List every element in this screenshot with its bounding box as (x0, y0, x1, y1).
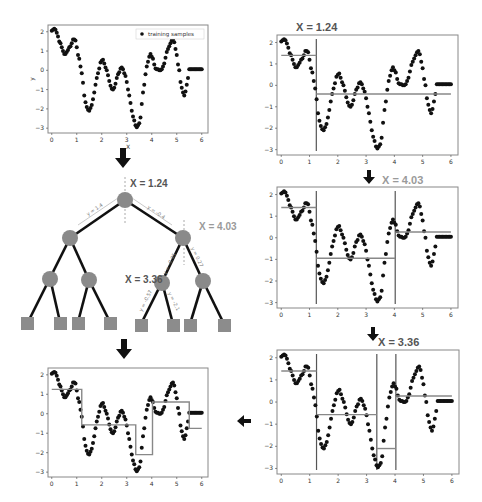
tree-leaves (21, 317, 231, 332)
leaf (54, 317, 67, 330)
x-tick-label: 5 (421, 158, 425, 165)
edge-label-right-left: y = -0.95 (162, 252, 178, 276)
split1-title: X = 1.24 (296, 21, 337, 33)
y-tick-label: 2 (40, 28, 44, 35)
x-tick-label: 2 (100, 136, 104, 143)
y-tick-label: −2 (264, 124, 273, 131)
x-tick-label: 6 (449, 158, 453, 165)
plot-frame (277, 35, 458, 155)
leaf (72, 317, 85, 330)
lower-split-label: X = 3.36 (125, 274, 163, 285)
training-samples-plot: 0123456210−1−2−3training samplesXy (0, 0, 241, 150)
node-left-right (81, 272, 97, 288)
node-left (62, 230, 78, 246)
node-left-left (42, 271, 58, 287)
x-tick-label: 5 (422, 477, 426, 484)
leaf (21, 317, 34, 330)
x-tick-label: 1 (75, 480, 79, 487)
root-split-label: X = 1.24 (130, 178, 168, 189)
x-tick-label: 0 (279, 311, 283, 318)
y-tick-label: −3 (264, 299, 273, 306)
x-tick-label: 4 (392, 158, 396, 165)
tree-edges (28, 200, 224, 324)
y-tick-label: −2 (35, 449, 44, 456)
y-tick-label: 0 (40, 66, 44, 73)
y-tick-label: −1 (35, 429, 44, 436)
y-tick-label: 2 (269, 39, 273, 46)
leaf (104, 317, 117, 330)
y-tick-label: −2 (264, 277, 273, 284)
x-tick-label: 4 (392, 311, 396, 318)
split1-plot: 0123456210−1−2−3 (241, 0, 482, 165)
legend-label: training samples (148, 31, 194, 38)
y-tick-label: −3 (264, 464, 273, 471)
x-tick-label: 6 (200, 480, 204, 487)
y-tick-label: −3 (35, 124, 44, 131)
leaf (167, 319, 180, 332)
y-tick-label: 1 (269, 60, 273, 67)
x-tick-label: 4 (150, 136, 154, 143)
edge-label-root-right: y = -0.4 (146, 204, 167, 221)
x-tick-label: 0 (50, 480, 54, 487)
plot-frame (277, 350, 459, 474)
x-tick-label: 1 (308, 311, 312, 318)
x-tick-label: 3 (364, 158, 368, 165)
plot-frame (48, 25, 208, 133)
y-tick-label: 0 (40, 410, 44, 417)
y-tick-label: 1 (40, 47, 44, 54)
node-right-right (195, 273, 211, 289)
split2-plot: 0123456210−1−2−3 (241, 165, 482, 330)
plot-frame (48, 368, 208, 477)
x-tick-label: 3 (365, 477, 369, 484)
x-tick-label: 2 (100, 480, 104, 487)
split3-plot: 0123456210−1−2−3 (241, 330, 482, 502)
y-tick-label: 2 (40, 371, 44, 378)
x-tick-label: 2 (336, 311, 340, 318)
right-split-label: X = 4.03 (199, 221, 237, 232)
y-tick-label: −1 (264, 255, 273, 262)
y-tick-label: 1 (269, 376, 273, 383)
tree-svg: y = 1.4 y = -0.4 y = -0.95 y = 0.27 y = … (0, 150, 250, 350)
legend-marker-icon (140, 32, 144, 36)
x-tick-label: 6 (450, 477, 454, 484)
x-tick-label: 4 (150, 480, 154, 487)
y-tick-label: −1 (264, 420, 273, 427)
y-tick-label: 2 (269, 191, 273, 198)
final-fit-chart: 0123456210−1−2−3 (0, 350, 241, 502)
split3-chart: 0123456210−1−2−3 (241, 330, 482, 502)
x-tick-label: 0 (279, 477, 283, 484)
node-right (175, 230, 191, 246)
y-tick-label: 1 (269, 212, 273, 219)
split2-chart: 0123456210−1−2−3 (241, 165, 482, 330)
x-tick-label: 0 (50, 136, 54, 143)
x-tick-label: 1 (308, 158, 312, 165)
y-tick-label: 0 (269, 398, 273, 405)
y-tick-label: −2 (35, 105, 44, 112)
x-tick-label: 5 (175, 136, 179, 143)
x-tick-label: 0 (279, 158, 283, 165)
leaf (218, 319, 231, 332)
x-tick-label: 3 (125, 480, 129, 487)
leaf (135, 319, 148, 332)
x-tick-label: 5 (175, 480, 179, 487)
x-tick-label: 1 (308, 477, 312, 484)
x-tick-label: 3 (364, 311, 368, 318)
x-tick-label: 3 (125, 136, 129, 143)
y-tick-label: −2 (264, 442, 273, 449)
training-scatter-chart: 0123456210−1−2−3training samplesXy (0, 0, 241, 150)
x-tick-label: 2 (336, 477, 340, 484)
x-tick-label: 5 (421, 311, 425, 318)
y-tick-label: 0 (269, 234, 273, 241)
x-tick-label: 1 (75, 136, 79, 143)
y-tick-label: −1 (35, 86, 44, 93)
leaf (184, 319, 197, 332)
root-node (117, 192, 133, 208)
x-tick-label: 4 (393, 477, 397, 484)
y-tick-label: 2 (269, 354, 273, 361)
y-tick-label: −3 (264, 146, 273, 153)
decision-tree-diagram: y = 1.4 y = -0.4 y = -0.95 y = 0.27 y = … (0, 150, 250, 350)
y-tick-label: 0 (269, 81, 273, 88)
y-tick-label: −3 (35, 468, 44, 475)
y-tick-label: −1 (264, 103, 273, 110)
final-fit-plot: 0123456210−1−2−3 (0, 350, 241, 502)
